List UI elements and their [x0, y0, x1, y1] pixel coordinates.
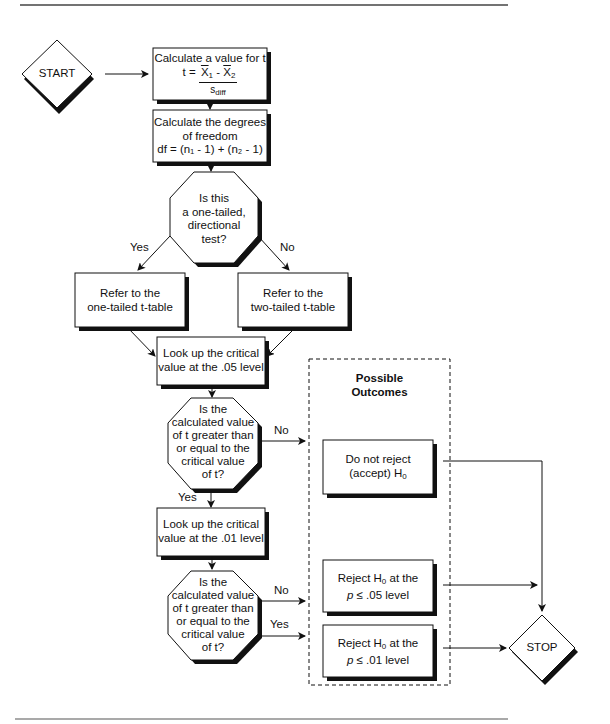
- reject-05-line1: Reject H0 at the: [323, 572, 433, 589]
- stop-terminal: STOP: [509, 641, 575, 655]
- h0-sub: 0: [402, 472, 406, 481]
- reject-05-outcome: Reject H0 at the p ≤ .05 level: [323, 572, 433, 602]
- two-tailed-line1: Refer to the: [238, 287, 348, 301]
- compare-05-no-label: No: [274, 424, 289, 436]
- directional-decision: Is this a one-tailed, directional test?: [170, 192, 258, 246]
- lookup-01-line1: Look up the critical: [157, 518, 265, 532]
- one-tailed-table-step: Refer to the one-tailed t-table: [75, 287, 185, 314]
- arrow-one-tailed-to-lookup: [127, 327, 155, 356]
- outcomes-title-line2: Outcomes: [309, 386, 450, 400]
- start-label: START: [39, 67, 76, 79]
- outcomes-title-line1: Possible: [309, 372, 450, 386]
- t-formula-numerator: X1 - X2: [199, 66, 237, 83]
- decision-line: Is this: [170, 192, 258, 206]
- decision-line: Is the: [168, 403, 258, 416]
- level-text: ≤ .05 level: [353, 589, 409, 601]
- decision-line: or equal to the: [168, 615, 258, 628]
- t-formula-lhs: t =: [183, 66, 199, 78]
- x2-sub: 2: [231, 71, 235, 80]
- compare-01-yes-label: Yes: [270, 618, 289, 630]
- reject-01-outcome: Reject H0 at the p ≤ .01 level: [323, 637, 433, 667]
- level-text: ≤ .01 level: [353, 654, 409, 666]
- reject-01-line2: p ≤ .01 level: [323, 654, 433, 668]
- reject-text: Reject H: [338, 572, 382, 584]
- compare-05-yes-label: Yes: [178, 491, 197, 503]
- directional-yes-label: Yes: [130, 241, 149, 253]
- compare-05-decision: Is the calculated value of t greater tha…: [168, 403, 258, 481]
- df-formula: df = (n₁ - 1) + (n₂ - 1): [153, 143, 267, 157]
- minus-sign: -: [213, 66, 223, 78]
- flowchart-canvas: [0, 0, 610, 724]
- decision-line: of t?: [168, 468, 258, 481]
- decision-line: Is the: [168, 576, 258, 589]
- at-the-text: at the: [386, 572, 418, 584]
- two-tailed-line2: two-tailed t-table: [238, 301, 348, 315]
- one-tailed-line2: one-tailed t-table: [75, 301, 185, 315]
- decision-line: a one-tailed,: [170, 206, 258, 220]
- accept-h0-outcome: Do not reject (accept) H0: [323, 453, 433, 483]
- decision-line: calculated value: [168, 589, 258, 602]
- calc-t-title: Calculate a value for t: [153, 52, 267, 66]
- at-the-text: at the: [386, 637, 418, 649]
- lookup-01-step: Look up the critical value at the .01 le…: [157, 518, 265, 545]
- lookup-01-line2: value at the .01 level: [157, 532, 265, 546]
- decision-line: of t?: [168, 641, 258, 654]
- accept-line2-text: (accept) H: [349, 467, 402, 479]
- outcomes-title: Possible Outcomes: [309, 372, 450, 399]
- decision-line: of t greater than: [168, 602, 258, 615]
- compare-01-decision: Is the calculated value of t greater tha…: [168, 576, 258, 654]
- lookup-05-line1: Look up the critical: [157, 347, 265, 361]
- reject-05-line2: p ≤ .05 level: [323, 589, 433, 603]
- accept-line2: (accept) H0: [323, 467, 433, 484]
- reject-text: Reject H: [338, 637, 382, 649]
- calc-df-line1: Calculate the degrees: [153, 116, 267, 130]
- arrow-accept-to-stop: [443, 461, 542, 611]
- decision-line: directional: [170, 219, 258, 233]
- calc-df-step: Calculate the degrees of freedom df = (n…: [153, 116, 267, 157]
- decision-line: calculated value: [168, 416, 258, 429]
- directional-no-label: No: [280, 241, 295, 253]
- two-tailed-table-step: Refer to the two-tailed t-table: [238, 287, 348, 314]
- t-formula: t = X1 - X2: [153, 66, 267, 83]
- decision-line: or equal to the: [168, 442, 258, 455]
- t-formula-denominator: sdiff: [153, 83, 267, 100]
- x2-bar: X: [223, 66, 231, 78]
- one-tailed-line1: Refer to the: [75, 287, 185, 301]
- accept-line1: Do not reject: [323, 453, 433, 467]
- lookup-05-line2: value at the .05 level: [157, 361, 265, 375]
- decision-line: critical value: [168, 455, 258, 468]
- stop-label: STOP: [526, 641, 557, 653]
- decision-line: critical value: [168, 628, 258, 641]
- reject-01-line1: Reject H0 at the: [323, 637, 433, 654]
- calc-t-step: Calculate a value for t t = X1 - X2 sdif…: [153, 52, 267, 99]
- decision-line: test?: [170, 233, 258, 247]
- calc-df-line2: of freedom: [153, 130, 267, 144]
- lookup-05-step: Look up the critical value at the .05 le…: [157, 347, 265, 374]
- diff-sub: diff: [215, 88, 226, 97]
- x1-bar: X: [201, 66, 209, 78]
- start-terminal: START: [22, 67, 92, 81]
- compare-01-no-label: No: [274, 584, 289, 596]
- decision-line: of t greater than: [168, 429, 258, 442]
- arrow-two-tailed-to-lookup: [267, 327, 296, 356]
